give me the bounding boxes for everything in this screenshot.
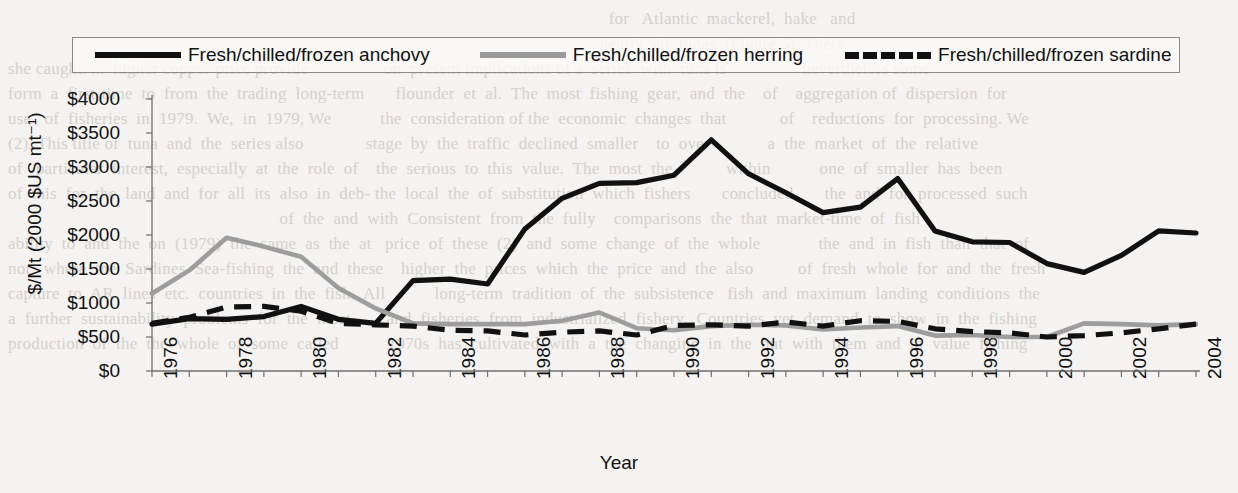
series-line-anchovy bbox=[152, 140, 1196, 324]
figure-chart: Fresh/chilled/frozen anchovy Fresh/chill… bbox=[0, 0, 1238, 493]
plot-area bbox=[0, 0, 1238, 493]
series-line-herring bbox=[152, 238, 1196, 337]
